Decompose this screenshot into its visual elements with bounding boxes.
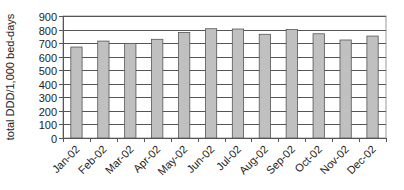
x-tick-label: Nov-02 (317, 143, 351, 177)
y-axis: 0100200300400500600700800900 (39, 11, 64, 145)
x-tick-label: Jun-02 (184, 143, 216, 175)
bars (71, 29, 378, 138)
y-tick-label: 400 (39, 79, 57, 91)
x-tick-label: Feb-02 (76, 143, 109, 176)
x-axis: Jan-02Feb-02Mar-02Apr-02May-02Jun-02Jul-… (50, 138, 387, 177)
bar-sep-02 (286, 29, 297, 138)
y-tick-label: 800 (39, 25, 57, 37)
y-tick-label: 100 (39, 119, 57, 131)
x-tick-label: Sep-02 (264, 143, 298, 177)
bar-jun-02 (205, 29, 216, 138)
bar-apr-02 (152, 39, 163, 138)
y-tick-label: 300 (39, 92, 57, 104)
y-tick-label: 600 (39, 52, 57, 64)
y-tick-label: 900 (39, 11, 57, 23)
plot-area (63, 16, 386, 138)
bar-nov-02 (340, 40, 351, 138)
y-tick-label: 700 (39, 38, 57, 50)
y-tick-label: 200 (39, 106, 57, 118)
bar-dec-02 (367, 36, 378, 138)
x-tick-label: Mar-02 (103, 143, 136, 176)
bar-jul-02 (232, 29, 243, 138)
x-tick-label: Aug-02 (237, 143, 271, 177)
bar-may-02 (178, 32, 189, 138)
bar-oct-02 (313, 34, 324, 138)
y-tick-label: 0 (51, 133, 57, 145)
y-axis-title: total DDD/1,000 bed-days (4, 13, 16, 140)
x-tick-label: Jan-02 (50, 143, 82, 175)
x-tick-label: May-02 (155, 143, 189, 177)
bar-aug-02 (259, 34, 270, 138)
bar-chart: 0100200300400500600700800900 Jan-02Feb-0… (0, 0, 404, 190)
bar-jan-02 (71, 47, 82, 138)
bar-mar-02 (125, 43, 136, 138)
gridlines (63, 16, 386, 138)
x-tick-label: Dec-02 (344, 143, 378, 177)
bar-feb-02 (98, 41, 109, 138)
y-tick-label: 500 (39, 65, 57, 77)
